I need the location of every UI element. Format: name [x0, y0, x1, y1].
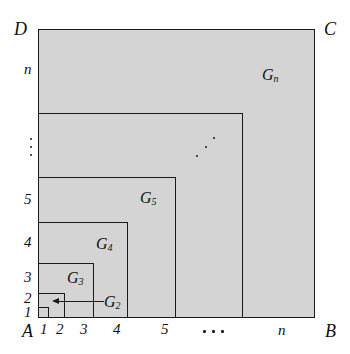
region-label-gn: Gn [262, 67, 279, 84]
region-label-g5-base: G [140, 189, 152, 206]
g2-leader-arrowhead [52, 298, 59, 304]
y-tick-5: 5 [24, 192, 32, 207]
region-label-g3-sub: 3 [79, 276, 84, 287]
ellipsis-dot [30, 146, 32, 148]
region-label-g2-sub: 2 [116, 300, 121, 311]
y-tick-4: 4 [24, 235, 32, 250]
region-label-g2-base: G [104, 293, 116, 310]
y-tick-1: 1 [24, 305, 32, 320]
region-label-g4-sub: 4 [108, 242, 113, 253]
x-tick-5: 5 [161, 322, 169, 337]
g2-leader-line [57, 301, 104, 302]
y-axis-vertical-ellipsis [28, 136, 34, 158]
ellipsis-dot [30, 154, 32, 156]
region-label-gn-base: G [262, 66, 274, 83]
region-label-g3-base: G [67, 269, 79, 286]
corner-label-a: A [22, 322, 33, 340]
region-label-g5: G5 [140, 190, 157, 207]
region-label-g5-sub: 5 [152, 196, 157, 207]
region-label-g2: G2 [104, 294, 121, 311]
x-tick-4: 4 [113, 322, 121, 337]
ellipsis-dot [30, 138, 32, 140]
y-tick-n: n [24, 62, 32, 77]
x-axis-horizontal-ellipsis [200, 330, 227, 333]
x-tick-1: 1 [40, 322, 48, 337]
unit-square-g1 [38, 307, 49, 318]
x-tick-n: n [278, 323, 286, 338]
ellipsis-dot [212, 330, 215, 333]
y-tick-3: 3 [24, 270, 32, 285]
region-label-g3: G3 [67, 270, 84, 287]
corner-label-c: C [324, 20, 336, 38]
corner-label-b: B [325, 322, 336, 340]
ellipsis-dot [203, 330, 206, 333]
ellipsis-dot [221, 330, 224, 333]
x-tick-2: 2 [56, 322, 64, 337]
region-label-g4-base: G [96, 235, 108, 252]
region-label-gn-sub: n [274, 73, 279, 84]
corner-label-d: D [14, 20, 27, 38]
nested-squares-figure: D C A B 1 2 3 4 5 n 1 2 3 4 5 n Gn G5 G4… [0, 0, 350, 354]
x-tick-3: 3 [80, 322, 88, 337]
y-tick-2: 2 [24, 291, 32, 306]
region-label-g4: G4 [96, 236, 113, 253]
